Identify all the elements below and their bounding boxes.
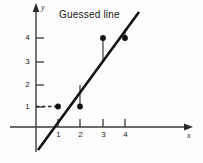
x-tick-label-4: 4 bbox=[120, 130, 131, 139]
data-point bbox=[122, 35, 128, 41]
chart-title: Guessed line bbox=[59, 9, 120, 20]
y-axis-ticks bbox=[36, 38, 44, 107]
y-tick-label-1: 1 bbox=[22, 102, 33, 111]
data-point bbox=[77, 104, 83, 110]
y-tick-label-3: 3 bbox=[22, 57, 33, 66]
data-points bbox=[55, 35, 128, 109]
chart-figure: Guessed line 4 3 2 1 1 2 3 4 y x bbox=[0, 0, 203, 163]
x-axis-ticks bbox=[58, 119, 125, 127]
x-tick-label-2: 2 bbox=[75, 130, 86, 139]
data-point bbox=[55, 104, 61, 110]
y-axis-label: y bbox=[41, 3, 45, 12]
y-axis bbox=[33, 3, 40, 152]
y-tick-label-4: 4 bbox=[22, 33, 33, 42]
x-axis-label: x bbox=[187, 131, 191, 140]
y-tick-label-2: 2 bbox=[22, 80, 33, 89]
x-tick-label-3: 3 bbox=[98, 130, 109, 139]
x-tick-label-1: 1 bbox=[53, 130, 64, 139]
data-point bbox=[100, 35, 106, 41]
